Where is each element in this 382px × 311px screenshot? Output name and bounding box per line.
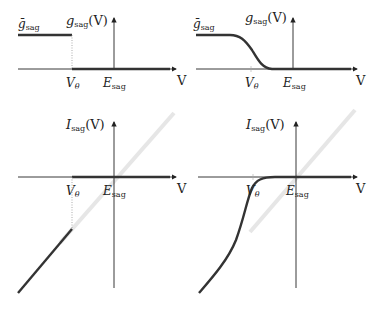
v-axis-label: V bbox=[176, 73, 187, 88]
e-sag-label: Esag bbox=[102, 76, 126, 91]
g-axis-label: gsag(V) bbox=[66, 13, 108, 29]
panel-top-right: ḡsag gsag(V) V Vθ Esag bbox=[193, 10, 366, 91]
v-axis-label: V bbox=[176, 181, 187, 196]
current-curve bbox=[199, 177, 351, 293]
v-theta-label: Vθ bbox=[246, 184, 260, 199]
gbar-label: ḡsag bbox=[193, 17, 215, 32]
gbar-label: ḡsag bbox=[18, 17, 40, 32]
panel-bottom-right: Isag(V) V Vθ Esag bbox=[198, 110, 366, 293]
v-theta-label: Vθ bbox=[245, 76, 259, 91]
e-sag-label: Esag bbox=[285, 184, 309, 199]
panel-bottom-left: Isag(V) V Vθ Esag bbox=[18, 113, 187, 293]
sigmoid-curve bbox=[196, 35, 351, 69]
v-axis-label: V bbox=[355, 181, 366, 196]
g-axis-label: gsag(V) bbox=[245, 10, 287, 26]
e-sag-label: Esag bbox=[282, 76, 306, 91]
i-axis-label: Isag(V) bbox=[65, 117, 105, 133]
current-linear bbox=[18, 229, 72, 293]
panel-top-left: ḡsag gsag(V) V Vθ Esag bbox=[18, 13, 187, 91]
i-axis-label: Isag(V) bbox=[245, 117, 285, 133]
figure: ḡsag gsag(V) V Vθ Esag ḡsag gsag(V) V Vθ… bbox=[0, 0, 382, 311]
v-axis-label: V bbox=[355, 73, 366, 88]
v-theta-label: Vθ bbox=[66, 76, 80, 91]
v-theta-label: Vθ bbox=[66, 184, 80, 199]
